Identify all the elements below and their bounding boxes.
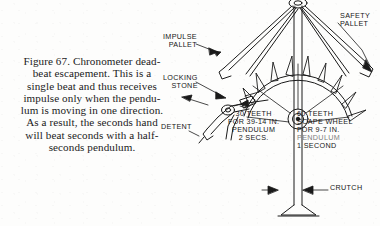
caption-line: Figure 67. Chronometer dead- bbox=[4, 55, 180, 67]
caption-line: will beat seconds with a half- bbox=[4, 129, 180, 141]
label-30-teeth-pendulum: 30 TEETH FOR 39-14 IN. PENDULUM 2 SECS. bbox=[228, 110, 279, 142]
caption-line: beat escapement. This is a bbox=[4, 67, 180, 79]
caption-line: As a result, the seconds hand bbox=[4, 116, 180, 128]
label-line: CRUTCH bbox=[330, 184, 362, 192]
label-line: STONE bbox=[163, 82, 198, 90]
caption-line: single beat and thus receives bbox=[4, 80, 180, 92]
caption-line: lum is moving in one direction. bbox=[4, 104, 180, 116]
label-safety-pallet: SAFETY PALLET bbox=[340, 12, 370, 28]
leader-lines bbox=[182, 23, 372, 194]
label-locking-stone: LOCKING STONE bbox=[163, 74, 198, 90]
label-crutch: CRUTCH bbox=[330, 184, 362, 192]
figure-page: Figure 67. Chronometer dead- beat escape… bbox=[0, 0, 380, 226]
figure-caption: Figure 67. Chronometer dead- beat escape… bbox=[4, 55, 180, 153]
label-60-teeth-scape-wheel: 60 TEETH SCAPE WHEEL FOR 9-7 IN. PENDULU… bbox=[297, 110, 353, 150]
label-impulse-pallet: IMPULSE PALLET bbox=[163, 33, 197, 49]
caption-line: seconds pendulum. bbox=[4, 141, 180, 153]
label-line: 2 SECS. bbox=[228, 134, 279, 142]
label-line: PALLET bbox=[163, 41, 197, 49]
label-line: PALLET bbox=[340, 20, 370, 28]
label-line: 1 SECOND bbox=[297, 142, 353, 150]
label-line: DETENT bbox=[161, 123, 192, 131]
caption-line: impulse only when the pendu- bbox=[4, 92, 180, 104]
label-detent: DETENT bbox=[161, 123, 192, 131]
